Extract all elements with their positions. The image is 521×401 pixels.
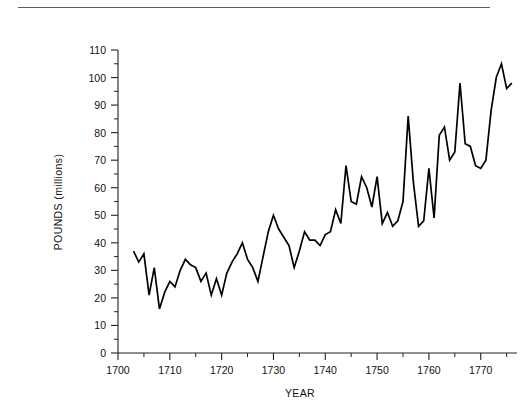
y-tick-label: 30 [94,264,106,276]
y-tick-label: 40 [94,237,106,249]
y-tick-label: 90 [94,99,106,111]
y-tick-label: 50 [94,209,106,221]
y-tick-label: 20 [94,292,106,304]
chart-canvas: 0102030405060708090100110 17001710172017… [40,16,521,401]
y-tick-label: 110 [89,44,106,56]
y-tick-label: 0 [100,347,106,359]
page-scan-rule [18,7,490,8]
line-chart-figure: 0102030405060708090100110 17001710172017… [40,16,521,401]
x-tick-label: 1760 [417,364,441,376]
x-tick-label: 1730 [262,364,286,376]
y-axis-title: POUNDS (millions) [52,154,64,251]
y-tick-label: 10 [94,319,106,331]
y-tick-label: 70 [94,154,106,166]
x-axis-title: YEAR [285,387,315,399]
y-tick-label: 100 [88,72,106,84]
x-tick-label: 1710 [158,364,182,376]
x-tick-label: 1700 [106,364,130,376]
x-tick-label: 1720 [210,364,234,376]
x-tick-label: 1770 [469,364,493,376]
data-series-line [134,64,512,309]
x-tick-label: 1740 [314,364,338,376]
y-tick-label: 60 [94,182,106,194]
x-tick-label: 1750 [365,364,389,376]
y-tick-label: 80 [94,127,106,139]
x-axis: 17001710172017301740175017601770 [106,353,517,376]
y-axis: 0102030405060708090100110 [88,44,118,359]
